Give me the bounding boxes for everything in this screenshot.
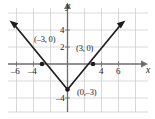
coordinate-plane [0, 0, 155, 119]
y-axis [64, 3, 71, 113]
y-axis-label: y [66, 2, 70, 12]
x-tick-label-minus6: –6 [11, 67, 20, 76]
x-tick-label-minus4: –4 [28, 67, 37, 76]
point-label-x-intercept-right: (3, 0) [76, 44, 93, 53]
graph-figure: –6 –4 4 6 4 2 –4 y x (–3, 0) (3, 0) (0,–… [0, 0, 155, 119]
point-label-x-intercept-left: (–3, 0) [34, 35, 55, 44]
x-tick-label-4: 4 [99, 67, 103, 76]
x-tick-label-6: 6 [116, 67, 120, 76]
y-tick-label-4: 4 [60, 26, 64, 35]
x-axis-label: x [146, 66, 150, 76]
y-tick-label-minus4: –4 [56, 94, 65, 103]
grid-horizontal-lines [8, 13, 148, 112]
y-tick-label-2: 2 [60, 43, 64, 52]
point-label-vertex: (0,–3) [77, 88, 96, 97]
